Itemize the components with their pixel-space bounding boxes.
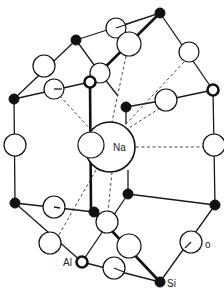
o-atom — [33, 55, 55, 77]
o-atom — [96, 211, 118, 233]
si-label: Si — [167, 278, 176, 289]
si-atom — [155, 277, 165, 287]
sodalite-cage-diagram: Na — [0, 0, 224, 289]
o-atom — [78, 132, 104, 158]
si-atom — [10, 198, 20, 208]
na-label: Na — [113, 142, 126, 153]
si-atom — [9, 94, 19, 104]
al-atom — [85, 77, 96, 88]
al-atom — [208, 85, 219, 96]
o-atom — [4, 134, 26, 156]
si-atom — [71, 35, 81, 45]
si-atom — [121, 102, 131, 112]
o-atom — [39, 232, 61, 254]
si-atom — [155, 8, 165, 18]
o-atom — [179, 42, 199, 62]
si-atom — [123, 189, 133, 199]
al-atom — [77, 257, 88, 268]
si-atom — [89, 207, 99, 217]
o-atom — [117, 234, 141, 258]
o-atom — [203, 134, 224, 156]
o-atom — [155, 89, 177, 111]
o-label: o — [205, 239, 211, 250]
o-atom — [117, 32, 141, 56]
al-label: Al — [63, 257, 72, 268]
si-atom — [210, 200, 220, 210]
